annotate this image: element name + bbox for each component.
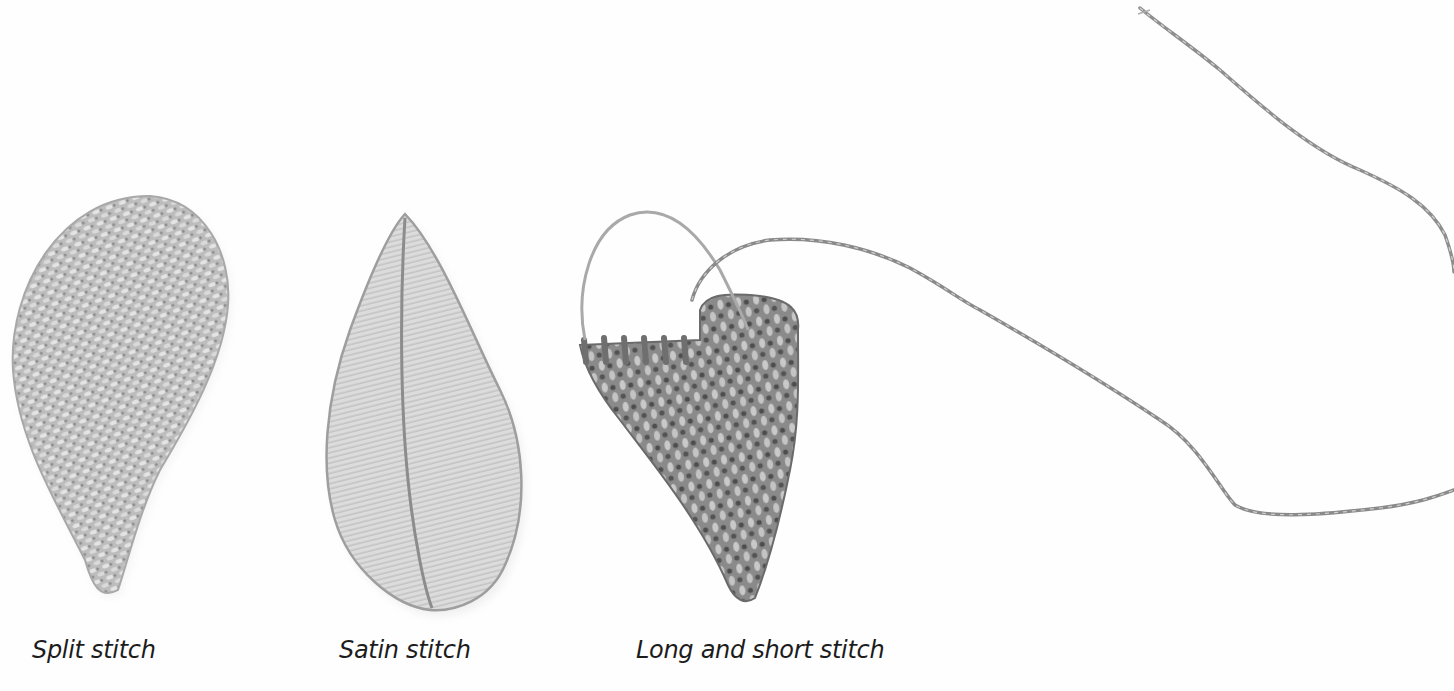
loose-thread xyxy=(692,8,1454,515)
caption-split-stitch: Split stitch xyxy=(32,636,156,664)
long-and-short-stitch-sample xyxy=(580,212,798,601)
embroidery-illustration xyxy=(0,0,1454,691)
caption-satin-stitch: Satin stitch xyxy=(339,636,471,664)
satin-stitch-sample xyxy=(327,214,526,616)
split-stitch-sample xyxy=(13,196,232,597)
caption-long-and-short-stitch: Long and short stitch xyxy=(636,636,884,664)
